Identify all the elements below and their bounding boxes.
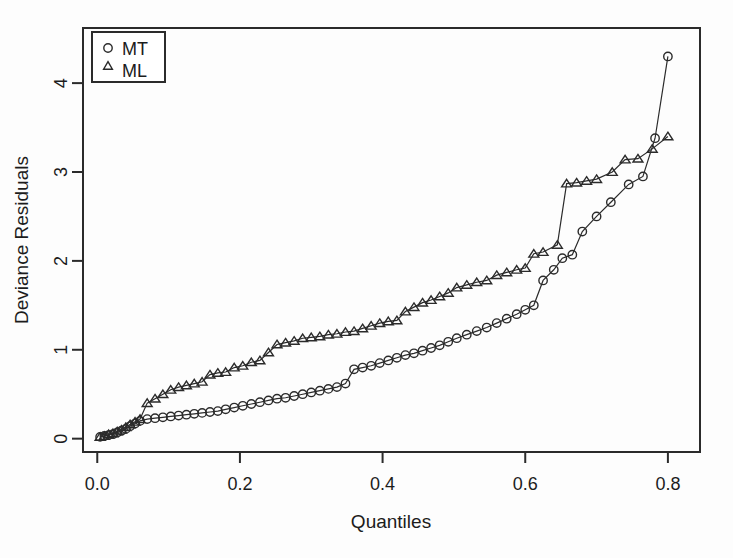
y-axis-title: Deviance Residuals bbox=[11, 156, 32, 324]
y-tick-label: 2 bbox=[51, 256, 71, 266]
legend-label-mt: MT bbox=[122, 39, 148, 59]
y-tick-label: 4 bbox=[51, 78, 71, 88]
x-tick-label: 0.0 bbox=[85, 474, 110, 494]
y-tick-label: 3 bbox=[51, 167, 71, 177]
chart-figure: 0.00.20.40.60.8 01234 Quantiles Deviance… bbox=[0, 0, 733, 558]
chart-legend: MT ML bbox=[92, 32, 165, 82]
x-tick-label: 0.6 bbox=[513, 474, 538, 494]
x-tick-label: 0.2 bbox=[227, 474, 252, 494]
quantile-deviance-residuals-plot: 0.00.20.40.60.8 01234 Quantiles Deviance… bbox=[0, 0, 733, 558]
y-tick-label: 0 bbox=[51, 434, 71, 444]
y-tick-label: 1 bbox=[51, 345, 71, 355]
legend-label-ml: ML bbox=[122, 61, 147, 81]
x-axis-title: Quantiles bbox=[351, 511, 431, 532]
x-tick-label: 0.8 bbox=[655, 474, 680, 494]
figure-background bbox=[0, 0, 733, 558]
x-tick-label: 0.4 bbox=[370, 474, 395, 494]
